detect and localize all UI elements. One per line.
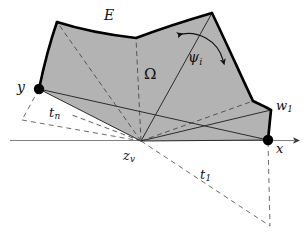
label-vertex-w1: w1 xyxy=(276,99,293,114)
label-edge-tn-sub: n xyxy=(54,111,60,121)
label-surface-E: E xyxy=(104,8,114,22)
label-axis-x: x xyxy=(276,142,283,155)
geometric-figure: E ψi Ω y w1 tn zv x t1 xyxy=(0,0,304,242)
label-vertex-w1-base: w xyxy=(276,98,287,113)
label-angle-psi: ψi xyxy=(188,50,202,66)
label-edge-t1: t1 xyxy=(200,168,211,183)
dashed-x-drop xyxy=(268,142,270,226)
label-vertex-y: y xyxy=(17,80,25,94)
label-edge-t1-sub: 1 xyxy=(205,173,211,183)
label-region-omega: Ω xyxy=(144,67,156,82)
label-apex-zv: zv xyxy=(123,149,135,164)
label-angle-psi-sub: i xyxy=(199,56,202,67)
label-vertex-w1-sub: 1 xyxy=(287,104,293,114)
label-apex-zv-base: z xyxy=(123,148,130,163)
dot-vertex-y xyxy=(34,84,44,94)
label-apex-zv-sub: v xyxy=(130,154,135,164)
figure-canvas xyxy=(0,0,304,242)
dashed-t1-ray xyxy=(141,141,270,226)
label-angle-psi-base: ψ xyxy=(188,49,199,65)
dot-vertex-x xyxy=(263,135,273,145)
label-edge-tn: tn xyxy=(49,106,60,121)
